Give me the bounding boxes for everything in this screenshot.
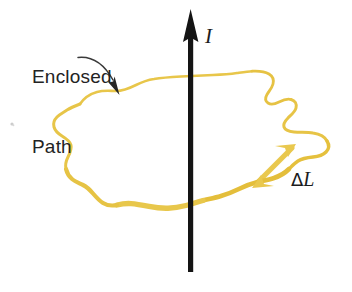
- current-arrow: [183, 9, 198, 272]
- loop-segment-top-right: [252, 71, 291, 104]
- enclosed-path-label: Enclosed Path: [32, 19, 112, 204]
- scan-speck: [10, 122, 14, 126]
- loop-segment-right-upper: [284, 100, 327, 142]
- delta-l-letter: L: [303, 168, 314, 190]
- current-arrow-shaft: [188, 36, 193, 272]
- delta-symbol: Δ: [291, 169, 303, 190]
- loop-segment-lower-right: [203, 169, 289, 201]
- enclosed-path-label-line1: Enclosed: [32, 65, 112, 88]
- current-label: I: [205, 24, 212, 50]
- ampere-law-figure: Enclosed Path I ΔL: [0, 0, 352, 292]
- delta-l-label: ΔL: [291, 167, 314, 191]
- enclosed-path-label-line2: Path: [32, 135, 112, 158]
- current-arrow-head: [183, 9, 198, 42]
